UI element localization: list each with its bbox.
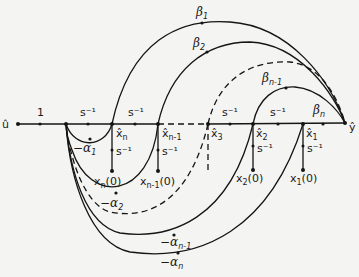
svg-text:−α2: −α2 [100,196,123,212]
signal-flow-graph: û ŷ 1 s⁻¹ s⁻¹ s⁻¹ s⁻¹ x̂n x̂n-1 x̂3 x̂2 … [0,0,359,277]
ic-gain-3: s⁻¹ [257,142,273,155]
svg-text:−αn-1: −αn-1 [160,235,191,251]
integrator-label-3: s⁻¹ [222,106,238,119]
input-gain-label: 1 [37,106,44,119]
state-node-labels: x̂n x̂n-1 x̂3 x̂2 x̂1 [116,127,318,142]
svg-text:x̂n: x̂n [116,127,128,142]
integrator-label-1: s⁻¹ [80,106,96,119]
svg-text:x̂2: x̂2 [256,127,268,142]
initial-condition-branches [110,124,305,173]
ic-gain-2: s⁻¹ [162,145,178,158]
svg-text:x2(0): x2(0) [236,172,263,187]
svg-text:β2: β2 [192,36,205,52]
svg-text:x̂3: x̂3 [211,127,223,142]
input-label: û [2,118,9,131]
alpha-labels: −α1 −α2 −αn-1 −αn [73,141,191,271]
output-label: ŷ [349,121,356,134]
svg-text:−α1: −α1 [73,141,96,157]
svg-text:βn: βn [312,103,325,119]
svg-text:−αn: −αn [160,255,183,271]
initial-condition-labels: xn(0) xn-1(0) x2(0) x1(0) [94,172,317,190]
svg-text:x̂1: x̂1 [306,127,318,142]
svg-text:xn(0): xn(0) [94,175,121,190]
svg-text:x1(0): x1(0) [290,172,317,187]
ic-gain-4: s⁻¹ [307,142,323,155]
integrator-label-2: s⁻¹ [128,106,144,119]
svg-text:βn-1: βn-1 [261,71,282,87]
svg-text:β1: β1 [195,5,208,21]
svg-text:x̂n-1: x̂n-1 [162,127,182,142]
svg-text:xn-1(0): xn-1(0) [140,175,175,190]
ic-gain-1: s⁻¹ [116,145,132,158]
integrator-label-4: s⁻¹ [270,106,286,119]
